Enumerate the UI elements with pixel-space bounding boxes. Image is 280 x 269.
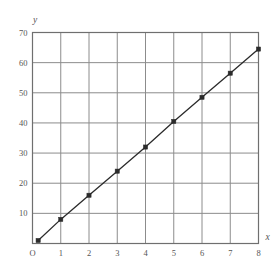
x-axis-tick-labels: O12345678: [29, 248, 260, 258]
gridlines: [33, 33, 259, 244]
data-point-marker: [143, 145, 147, 149]
line-chart: O1234567810203040506070yx: [0, 0, 280, 269]
y-axis-tick-labels: 10203040506070: [19, 28, 28, 219]
data-point-marker: [200, 95, 204, 99]
y-axis-label: y: [32, 15, 38, 25]
data-point-marker: [256, 47, 260, 51]
data-point-marker: [59, 217, 63, 221]
x-tick-label: 1: [59, 248, 63, 258]
chart-container: O1234567810203040506070yx: [0, 0, 280, 269]
x-tick-label: 8: [256, 248, 260, 258]
x-tick-label: 6: [200, 248, 204, 258]
x-tick-label: 4: [143, 248, 148, 258]
data-point-marker: [172, 119, 176, 123]
y-tick-label: 20: [19, 178, 28, 188]
y-tick-label: 50: [19, 88, 28, 98]
y-tick-label: 30: [19, 148, 28, 158]
data-point-marker: [115, 169, 119, 173]
x-tick-label: 5: [172, 248, 176, 258]
y-tick-label: 40: [19, 118, 28, 128]
data-line: [38, 49, 258, 240]
y-tick-label: 70: [19, 28, 28, 38]
x-tick-label: 7: [228, 248, 232, 258]
data-point-marker: [87, 193, 91, 197]
origin-label: O: [29, 248, 35, 258]
data-point-marker: [36, 238, 40, 242]
y-tick-label: 60: [19, 58, 28, 68]
x-tick-label: 2: [87, 248, 91, 258]
x-tick-label: 3: [115, 248, 119, 258]
data-point-marker: [228, 71, 232, 75]
x-axis-label: x: [264, 232, 270, 242]
y-tick-label: 10: [19, 208, 28, 218]
